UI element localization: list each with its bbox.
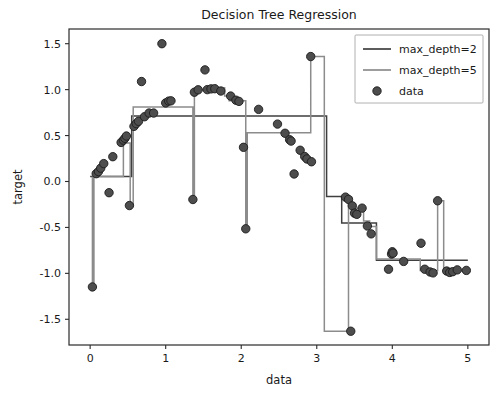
data-point [201,66,209,74]
x-tick-label: 5 [464,352,471,365]
data-point [137,77,145,85]
data-point [105,189,113,197]
data-point [235,97,243,105]
data-point [389,249,397,257]
data-point [433,197,441,205]
x-tick-label: 1 [162,352,169,365]
x-tick-label: 2 [238,352,245,365]
data-point [149,109,157,117]
data-point [122,132,130,140]
data-point [307,52,315,60]
data-point [125,201,133,209]
x-tick-label: 4 [389,352,396,365]
y-tick-label: -1.5 [40,313,61,326]
data-point [462,266,470,274]
data-point [384,265,392,273]
data-point [239,143,247,151]
data-point [254,105,262,113]
data-point [217,87,225,95]
chart-legend[interactable]: max_depth=2max_depth=5data [355,35,483,103]
data-point [158,40,166,48]
data-point [347,327,355,335]
data-point [273,120,281,128]
y-tick-label: -0.5 [40,221,61,234]
data-point [100,159,108,167]
y-tick-label: 0.5 [44,130,62,143]
data-point [358,204,366,212]
x-tick-label: 3 [313,352,320,365]
data-point [399,257,407,265]
data-point [189,195,197,203]
data-point [109,152,117,160]
x-axis-label: data [266,373,292,387]
data-point [417,239,425,247]
data-point [242,225,250,233]
y-axis-label: target [11,169,25,204]
data-point [429,269,437,277]
legend-label[interactable]: max_depth=2 [399,43,477,56]
data-point [367,230,375,238]
data-point [287,137,295,145]
data-point [363,222,371,230]
data-point [167,97,175,105]
legend-label[interactable]: max_depth=5 [399,64,477,77]
y-tick-label: 1.0 [44,84,62,97]
data-point [194,86,202,94]
x-tick-label: 0 [87,352,94,365]
data-point [88,283,96,291]
legend-label[interactable]: data [399,85,424,98]
figure-canvas: Decision Tree Regression target data 012… [0,0,504,393]
y-tick-label: 0.0 [44,175,62,188]
data-point [453,266,461,274]
y-tick-label: 1.5 [44,38,62,51]
data-point [307,158,315,166]
decision-tree-regression-chart: Decision Tree Regression target data 012… [0,0,504,393]
legend-marker-swatch [373,87,381,95]
y-tick-label: -1.0 [40,267,61,280]
data-point [290,170,298,178]
chart-title: Decision Tree Regression [201,7,357,22]
